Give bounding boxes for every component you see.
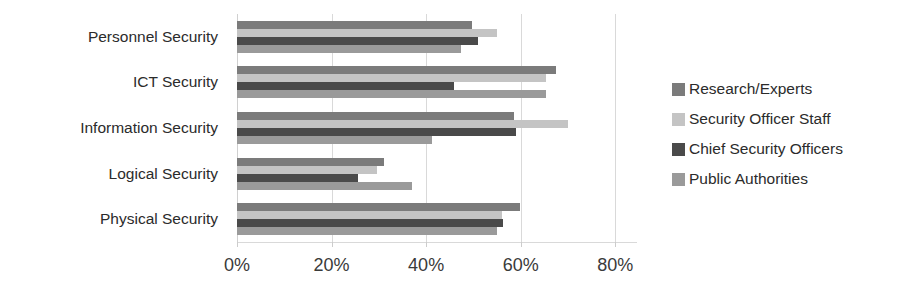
bar-group [237,196,637,242]
legend-item[interactable]: Public Authorities [672,164,912,194]
x-tick-label: 40% [408,254,444,276]
legend-item[interactable]: Chief Security Officers [672,134,912,164]
bar [237,174,358,182]
bar [237,136,432,144]
bar [237,227,497,235]
bar [237,128,516,136]
bar-group [237,14,637,60]
x-tick-mark [521,242,522,247]
bar [237,90,546,98]
legend-label: Research/Experts [689,80,812,98]
legend-item[interactable]: Security Officer Staff [672,104,912,134]
legend-label: Chief Security Officers [689,140,843,158]
x-tick-mark [615,242,616,247]
bar [237,203,520,211]
x-tick-label: 60% [503,254,539,276]
legend-swatch-icon [672,173,685,186]
legend-swatch-icon [672,113,685,126]
x-tick-mark [237,242,238,247]
bar [237,45,461,53]
x-axis-line [237,242,637,243]
legend-swatch-icon [672,143,685,156]
bar [237,29,497,37]
bar [237,158,384,166]
category-label: Personnel Security [88,28,218,46]
bar [237,82,454,90]
x-tick-mark [332,242,333,247]
legend-label: Public Authorities [689,170,808,188]
bar [237,21,472,29]
legend-swatch-icon [672,83,685,96]
bar-group [237,60,637,106]
bar-group [237,151,637,197]
bar [237,66,556,74]
bar [237,166,377,174]
category-axis-labels: Personnel SecurityICT SecurityInformatio… [0,14,228,242]
category-label: Information Security [80,119,218,137]
bar [237,182,412,190]
plot-area [237,14,637,242]
x-tick-mark [426,242,427,247]
x-tick-label: 80% [597,254,633,276]
x-tick-label: 20% [314,254,350,276]
legend-item[interactable]: Research/Experts [672,74,912,104]
chart-legend: Research/ExpertsSecurity Officer StaffCh… [672,74,912,194]
bar [237,219,503,227]
bar [237,112,514,120]
bar-group [237,105,637,151]
category-label: Logical Security [109,165,218,183]
category-label: ICT Security [133,73,218,91]
bar [237,74,546,82]
category-label: Physical Security [100,210,218,228]
bar [237,120,568,128]
bar [237,211,502,219]
bar-chart: Personnel SecurityICT SecurityInformatio… [0,0,916,302]
legend-label: Security Officer Staff [689,110,831,128]
x-tick-label: 0% [224,254,250,276]
bar [237,37,478,45]
